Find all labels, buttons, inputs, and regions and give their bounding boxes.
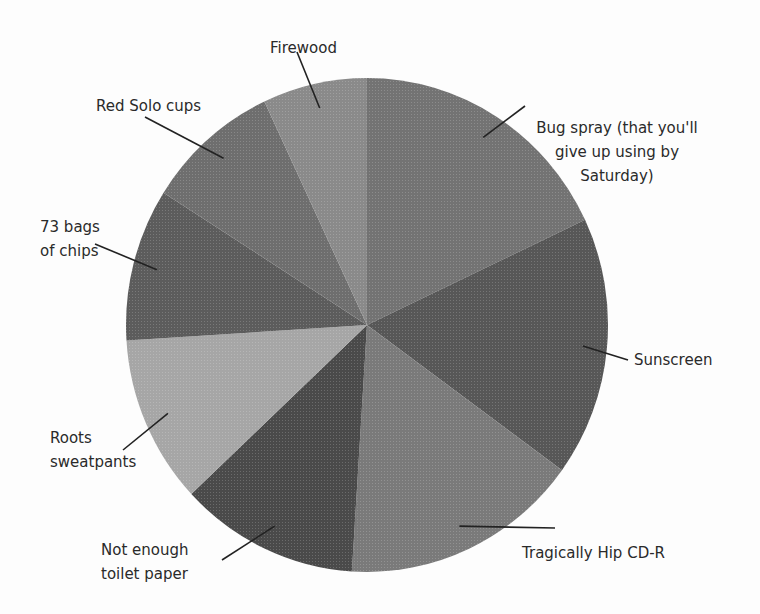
label-bug-spray: Bug spray (that you'll give up using by … (492, 116, 742, 188)
label-chips: 73 bags of chips (40, 215, 100, 263)
label-red-solo-cups: Red Solo cups (96, 94, 201, 118)
label-firewood: Firewood (270, 36, 337, 60)
label-toilet-paper: Not enough toilet paper (101, 538, 189, 586)
label-sunscreen: Sunscreen (634, 348, 712, 372)
pie-chart (0, 0, 760, 614)
label-roots-sweatpants: Roots sweatpants (50, 426, 136, 474)
label-tragically-hip: Tragically Hip CD-R (522, 541, 665, 565)
